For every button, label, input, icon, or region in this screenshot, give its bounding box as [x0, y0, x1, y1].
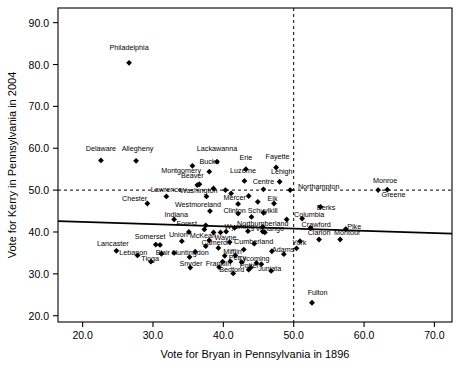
y-tick-label: 80.0: [29, 59, 50, 71]
plot-canvas: 20.030.040.050.060.070.020.030.040.050.0…: [0, 0, 462, 373]
data-point: [261, 186, 267, 192]
data-point-label: Northampton: [298, 182, 340, 191]
data-point-label: Tioga: [141, 254, 159, 263]
data-point-label: Lehigh: [271, 167, 293, 176]
scatter-plot-figure: 20.030.040.050.060.070.020.030.040.050.0…: [0, 0, 462, 373]
data-point-label: Monroe: [373, 176, 397, 185]
data-point: [277, 179, 283, 185]
data-point-label: Crawford: [302, 220, 331, 229]
data-point-label: Lancaster: [97, 239, 129, 248]
data-point-label: Lackawanna: [197, 144, 237, 153]
data-point: [309, 300, 315, 306]
x-tick-label: 60.0: [354, 329, 375, 341]
data-point-label: Clinton: [223, 206, 245, 215]
data-point-label: Snyder: [180, 259, 203, 268]
data-point-label: Greene: [382, 190, 406, 199]
data-point-label: Bedford: [219, 265, 244, 274]
data-point-label: Centre: [253, 177, 275, 186]
data-point-label: Cameron: [202, 238, 232, 247]
data-point-label: Union: [169, 230, 188, 239]
data-point-label: Fayette: [266, 152, 290, 161]
data-point-label: Cumberland: [234, 237, 273, 246]
data-point-label: Erie: [239, 153, 252, 162]
y-tick-label: 90.0: [29, 17, 50, 29]
data-point-label: Lawrence: [151, 185, 182, 194]
y-tick-label: 50.0: [29, 184, 50, 196]
data-point-label: Adams: [272, 245, 295, 254]
data-point-label: Luzerne: [230, 166, 256, 175]
data-point-label: Delaware: [86, 144, 116, 153]
x-tick-label: 40.0: [213, 329, 234, 341]
data-point: [316, 237, 322, 243]
data-point-label: Fulton: [308, 288, 328, 297]
data-point-label: Mercer: [223, 193, 246, 202]
data-point-label: Beaver: [181, 171, 204, 180]
data-point-label: York: [292, 238, 307, 247]
data-point-label: Bucks: [199, 157, 219, 166]
y-tick-label: 70.0: [29, 100, 50, 112]
data-point: [242, 178, 248, 184]
data-point-label: Venango: [256, 224, 284, 233]
data-point: [337, 237, 343, 243]
data-point-label: Chester: [122, 194, 148, 203]
y-tick-label: 40.0: [29, 226, 50, 238]
data-point: [133, 158, 139, 164]
x-tick-label: 20.0: [72, 329, 93, 341]
y-tick-label: 30.0: [29, 268, 50, 280]
data-point-label: Forest: [177, 219, 197, 228]
data-point: [163, 194, 169, 200]
x-axis-title: Vote for Bryan in Pennsylvania in 1896: [161, 348, 350, 360]
y-tick-label: 60.0: [29, 142, 50, 154]
data-point-label: Juniata: [258, 264, 281, 273]
data-point: [206, 169, 212, 175]
data-point: [287, 187, 293, 193]
data-point: [153, 242, 159, 248]
data-point-label: Schuylkill: [248, 206, 278, 215]
x-tick-label: 50.0: [283, 329, 304, 341]
x-tick-label: 30.0: [143, 329, 164, 341]
data-point-label: Somerset: [135, 232, 166, 241]
data-point-label: Philadelphia: [109, 43, 148, 52]
y-tick-label: 20.0: [29, 310, 50, 322]
data-point-label: Huntingdon: [172, 248, 209, 257]
data-point-label: Westmoreland: [175, 200, 221, 209]
data-point: [375, 187, 381, 193]
data-point-label: Washington: [180, 186, 218, 195]
data-point-label: Columbia: [294, 210, 324, 219]
data-point: [179, 238, 185, 244]
data-point-label: Wyoming: [225, 222, 255, 231]
data-point: [255, 199, 261, 205]
data-point-label: Elk: [268, 194, 278, 203]
data-point-label: Allegheny: [122, 144, 154, 153]
x-tick-label: 70.0: [424, 329, 445, 341]
data-point: [126, 60, 132, 66]
data-point: [246, 193, 252, 199]
data-point: [98, 157, 104, 163]
data-point-label: Montour: [334, 228, 361, 237]
data-point-label: Clarion: [308, 228, 331, 237]
y-axis-title: Vote for Kerry in Pennsylvania in 2004: [6, 72, 18, 259]
